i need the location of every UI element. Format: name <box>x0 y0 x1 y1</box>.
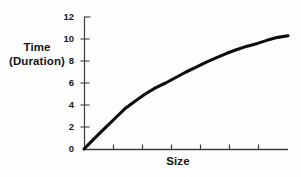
x-axis-label: Size <box>128 154 228 168</box>
plot-area <box>0 0 301 177</box>
y-axis <box>81 17 91 150</box>
data-series-line <box>84 36 288 149</box>
x-axis <box>84 145 288 150</box>
chart-container: Time (Duration) 12 10 8 6 4 2 0 Size <box>0 0 301 177</box>
